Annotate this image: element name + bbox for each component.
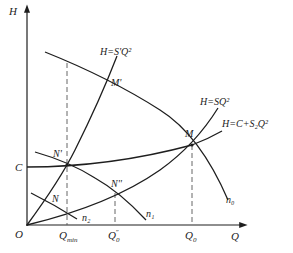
q-axis-label: Q <box>231 230 239 242</box>
point-m <box>190 143 193 146</box>
pump-curve-diagram: H Q O C H=S'Q² H=SQ² H=C+S₂Q² n₀ n₁ n₂ M… <box>0 0 293 253</box>
c-label: C <box>15 161 23 173</box>
label-n-double-prime: N'' <box>110 178 123 189</box>
label-system-static: H=C+S₂Q² <box>221 118 269 129</box>
tick-q0-prime: Q0″ <box>108 228 120 244</box>
tick-q0: Q0 <box>185 229 197 244</box>
label-n-prime: N' <box>52 148 63 159</box>
h-axis-label: H <box>8 5 18 17</box>
label-system-mid: H=SQ² <box>199 96 230 107</box>
curve-n1 <box>35 152 146 220</box>
point-n-prime <box>65 163 68 166</box>
label-n0: n₀ <box>226 194 235 205</box>
label-n2: n₂ <box>82 212 91 223</box>
label-system-steep: H=S'Q² <box>99 46 132 57</box>
label-m-prime: M' <box>110 77 122 88</box>
origin-label: O <box>15 228 23 240</box>
label-m: M <box>184 128 194 139</box>
label-n: N <box>51 193 60 204</box>
curve-system-steep <box>27 56 117 225</box>
curve-n0 <box>45 52 228 200</box>
tick-q-min: Qmin <box>59 229 78 244</box>
label-n1: n₁ <box>146 208 154 219</box>
